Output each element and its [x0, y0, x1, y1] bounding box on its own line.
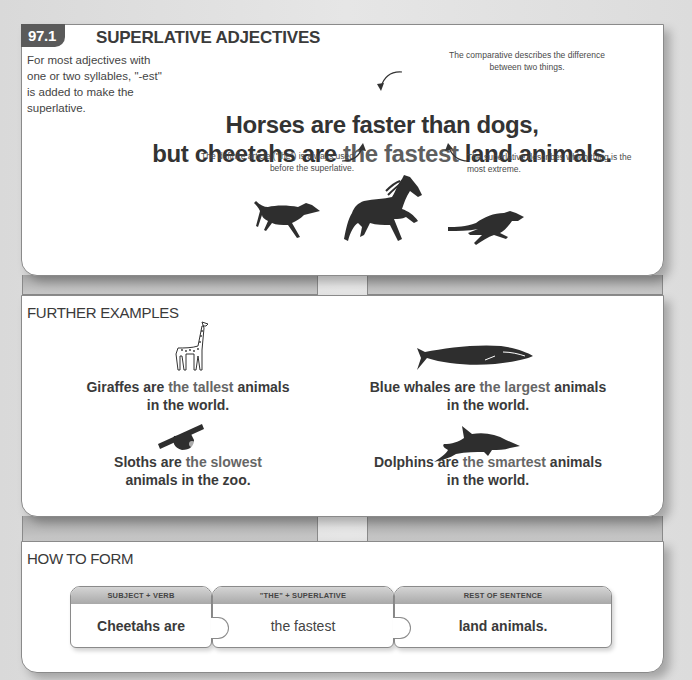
- how-to-form-title: HOW TO FORM: [27, 550, 133, 567]
- further-examples-panel: FURTHER EXAMPLES Giraffes are the talles…: [21, 295, 664, 517]
- piece-text: Cheetahs are: [71, 604, 211, 647]
- superlative-panel: 97.1 SUPERLATIVE ADJECTIVES For most adj…: [21, 24, 664, 276]
- giraffe-icon: [172, 320, 212, 372]
- example-dolphins-line2: in the world.: [348, 471, 628, 489]
- cheetah-icon: [446, 205, 526, 245]
- example-subject: Blue whales are: [370, 379, 480, 395]
- connector-left-top: [22, 275, 318, 295]
- note-superlative: The superlative describes which thing is…: [467, 151, 647, 175]
- puzzle-piece-subject-verb: SUBJECT + VERB Cheetahs are: [70, 586, 212, 648]
- dog-icon: [254, 197, 326, 241]
- example-giraffes: Giraffes are the tallest animals in the …: [58, 378, 318, 414]
- example-giraffes-line1: Giraffes are the tallest animals: [58, 378, 318, 396]
- section-number: 97.1: [21, 24, 65, 47]
- example-dolphins: Dolphins are the smartest animals in the…: [348, 453, 628, 489]
- note-article: The definite article ("the") is always u…: [194, 150, 354, 174]
- blue-whale-icon: [415, 342, 535, 372]
- example-superlative: the largest: [479, 379, 550, 395]
- sloth-icon: [156, 420, 206, 452]
- example-subject: Giraffes are: [86, 379, 168, 395]
- intro-text: For most adjectives with one or two syll…: [27, 52, 167, 116]
- arrow-comparative-icon: [374, 69, 404, 93]
- example-subject: Sloths are: [114, 454, 186, 470]
- connector-left-bottom: [22, 516, 318, 542]
- example-whales-line2: in the world.: [348, 396, 628, 414]
- piece-text: land animals.: [395, 604, 611, 647]
- horse-icon: [340, 173, 428, 245]
- example-superlative: the tallest: [168, 379, 233, 395]
- piece-text: the fastest: [213, 604, 393, 647]
- example-subject: Dolphins are: [374, 454, 463, 470]
- example-sloths-line1: Sloths are the slowest: [58, 453, 318, 471]
- headline-line1: Horses are faster than dogs,: [102, 110, 662, 139]
- example-superlative: the smartest: [463, 454, 546, 470]
- example-sloths: Sloths are the slowest animals in the zo…: [58, 453, 318, 489]
- piece-header: REST OF SENTENCE: [395, 587, 611, 604]
- section-title: SUPERLATIVE ADJECTIVES: [96, 28, 320, 48]
- puzzle-piece-the-superlative: "THE" + SUPERLATIVE the fastest: [212, 586, 394, 648]
- example-blue-whales: Blue whales are the largest animals in t…: [348, 378, 628, 414]
- how-to-form-panel: HOW TO FORM SUBJECT + VERB Cheetahs are …: [21, 541, 664, 673]
- further-examples-title: FURTHER EXAMPLES: [27, 304, 179, 321]
- example-whales-line1: Blue whales are the largest animals: [348, 378, 628, 396]
- arrow-article-icon: [340, 143, 370, 165]
- example-sloths-line2: animals in the zoo.: [58, 471, 318, 489]
- note-comparative: The comparative describes the difference…: [447, 49, 607, 73]
- example-superlative: the slowest: [186, 454, 262, 470]
- connector-right-bottom: [367, 516, 663, 542]
- example-giraffes-line2: in the world.: [58, 396, 318, 414]
- puzzle-piece-rest-of-sentence: REST OF SENTENCE land animals.: [394, 586, 612, 648]
- piece-header: SUBJECT + VERB: [71, 587, 211, 604]
- example-rest: animals: [550, 379, 606, 395]
- example-rest: animals: [546, 454, 602, 470]
- connector-right-top: [367, 275, 663, 295]
- example-rest: animals: [234, 379, 290, 395]
- example-dolphins-line1: Dolphins are the smartest animals: [348, 453, 628, 471]
- piece-header: "THE" + SUPERLATIVE: [213, 587, 393, 604]
